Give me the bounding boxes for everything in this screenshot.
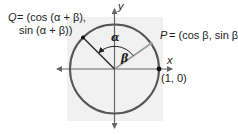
q-coords-line2: sin (α + β)) [19, 24, 72, 36]
p-label: P = (cos β, sin β) [160, 29, 238, 41]
point-one-zero [157, 67, 162, 72]
alpha-label: α [111, 31, 120, 44]
one-zero-label: (1, 0) [161, 72, 187, 84]
unit-circle-diagram: y x α β Q = (cos (α + β), sin (α + β)) P… [0, 0, 238, 135]
p-coords: = (cos β, sin β) [169, 29, 238, 41]
point-q [81, 36, 85, 40]
q-coords-line1: = (cos (α + β), [17, 11, 86, 23]
x-axis-label: x [166, 54, 173, 66]
q-name: Q [8, 11, 17, 23]
beta-label: β [120, 52, 129, 65]
point-p [149, 42, 153, 46]
p-name: P [160, 29, 168, 41]
y-axis-label: y [117, 0, 125, 12]
